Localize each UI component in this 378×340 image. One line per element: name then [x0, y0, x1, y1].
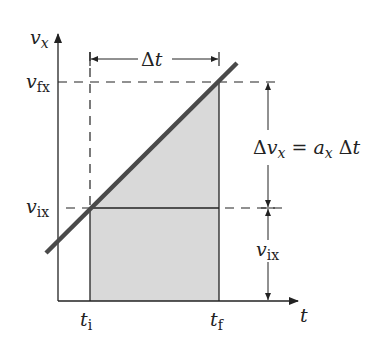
vfx-label: vfx: [26, 70, 50, 95]
vix-label: vix: [26, 195, 49, 220]
y-axis-label: vx: [30, 26, 49, 51]
tf-label: tf: [210, 308, 225, 333]
delta-t-label: Δt: [141, 48, 163, 70]
vix-dim-label: vix: [256, 238, 279, 263]
velocity-time-diagram: vx vfx vix ti tf t Δt Δvx = ax Δt vix: [0, 0, 378, 340]
ti-label: ti: [80, 308, 93, 333]
delta-vx-equation: Δvx = ax Δt: [253, 136, 360, 161]
x-axis-label: t: [300, 304, 308, 326]
